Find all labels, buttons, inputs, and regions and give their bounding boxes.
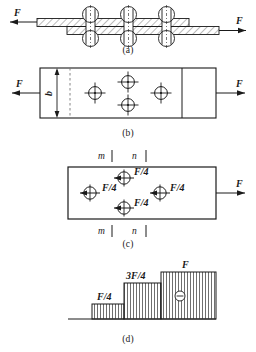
- section-label-m-bottom: m: [98, 226, 105, 236]
- force-arrow-left-b: [12, 90, 40, 96]
- rivet-c-right: [150, 185, 170, 202]
- caption-c: (c): [0, 239, 256, 249]
- rivet-c-bottom: [114, 200, 134, 217]
- caption-d: (d): [0, 334, 256, 344]
- force-label-left-b: F: [15, 78, 23, 89]
- force-label-right-a: F: [235, 15, 243, 26]
- rivet-b-left: [85, 83, 106, 104]
- rivet-force-label-c-right: F/4: [169, 182, 184, 193]
- force-arrow-right-a: [219, 28, 246, 34]
- force-arrow-right-c: [216, 190, 245, 196]
- panel-d: F/4 3F/4 F (d): [0, 256, 256, 352]
- width-label-b: b: [43, 91, 54, 96]
- rivet-force-label-c-bottom: F/4: [133, 197, 148, 208]
- force-step-1-label: F/4: [96, 291, 111, 302]
- force-label-right-b: F: [235, 78, 243, 89]
- caption-a: (a): [0, 45, 256, 55]
- rivet-c-top: [114, 170, 134, 187]
- section-label-n-top: n: [132, 151, 137, 161]
- rivet-b-bottom: [118, 95, 139, 116]
- force-arrow-right-b: [216, 90, 245, 96]
- rivet-force-label-c-top: F/4: [133, 166, 148, 177]
- force-label-left-a: F: [13, 7, 21, 18]
- positive-sign-icon: [175, 291, 185, 301]
- section-label-n-bottom: n: [132, 226, 137, 236]
- rivet-force-label-c-left: F/4: [101, 182, 116, 193]
- section-label-m-top: m: [98, 151, 105, 161]
- force-step-3: [161, 272, 216, 319]
- force-arrow-left-a: [10, 19, 37, 25]
- force-step-3-label: F: [181, 259, 189, 270]
- panel-c: m n F/4 F/4: [0, 146, 256, 256]
- rivet-b-right: [151, 83, 172, 104]
- panel-a: F F: [0, 0, 256, 60]
- caption-b: (b): [0, 128, 256, 138]
- rivet-c-left: [80, 185, 100, 202]
- width-dimension-b: [55, 68, 60, 118]
- force-step-2-label: 3F/4: [125, 270, 145, 281]
- rivet-b-top: [118, 72, 139, 93]
- force-step-1: [92, 304, 124, 319]
- force-step-2: [124, 283, 161, 319]
- force-label-right-c: F: [235, 178, 243, 189]
- engineering-figure: F F: [0, 0, 256, 352]
- panel-b: F b: [0, 60, 256, 146]
